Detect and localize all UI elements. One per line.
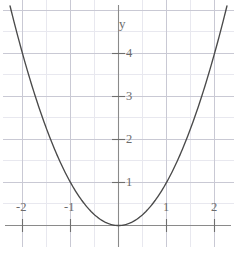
y-tick-label-3: 3 [126, 90, 132, 103]
x-tick-label-pos2: 2 [211, 201, 217, 214]
graph-canvas [0, 0, 237, 257]
y-axis-label: y [119, 17, 126, 30]
x-tick-label-pos1: 1 [163, 201, 169, 214]
y-tick-label-2: 2 [126, 133, 132, 146]
parabola-graph: y 1 2 3 4 -2 -1 1 2 [0, 0, 237, 257]
x-tick-label-neg2: -2 [16, 201, 26, 214]
y-tick-label-1: 1 [126, 176, 132, 189]
y-tick-label-4: 4 [126, 47, 132, 60]
x-tick-label-neg1: -1 [64, 201, 74, 214]
